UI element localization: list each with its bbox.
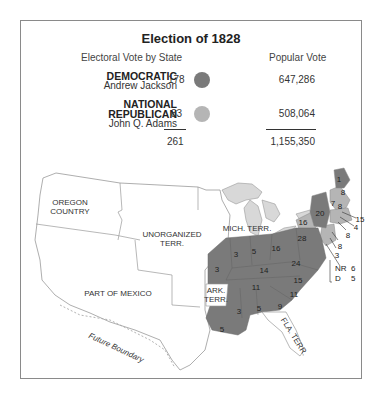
democratic-states	[206, 228, 326, 335]
vote-maine: 1	[337, 175, 342, 184]
vote-miss: 3	[237, 307, 242, 316]
unorganized-label-2: TERR.	[160, 239, 184, 248]
md-d-votes: 5	[351, 274, 356, 283]
ark-terr-label-2: TERR.	[204, 295, 228, 304]
md-nr-votes: 6	[351, 264, 356, 273]
vote-ri: 4	[354, 223, 359, 232]
vote-ill: 3	[234, 250, 239, 259]
vote-del: 3	[335, 251, 340, 260]
vote-ny: 20	[316, 209, 325, 218]
vote-vt: 7	[331, 199, 336, 208]
vote-ala: 5	[257, 304, 262, 313]
ark-terr-label: ARK.	[207, 286, 226, 295]
vote-ind: 5	[252, 247, 257, 256]
vote-mo: 3	[215, 265, 220, 274]
oregon-label-2: COUNTRY	[50, 207, 90, 216]
lake-superior	[222, 183, 262, 204]
vote-ohio: 16	[272, 244, 281, 253]
vote-la: 5	[220, 325, 225, 334]
future-boundary-label: Future Boundary	[87, 331, 146, 365]
vote-va: 24	[292, 259, 301, 268]
vote-pa: 28	[298, 234, 307, 243]
vote-nh: 8	[338, 202, 343, 211]
md-d-label: D	[335, 274, 341, 283]
vote-ct: 8	[346, 231, 351, 240]
vote-nj: 8	[338, 242, 343, 251]
vote-ky: 14	[260, 266, 269, 275]
vote-sc: 11	[290, 290, 299, 299]
oregon-label: OREGON	[52, 198, 88, 207]
vote-maine-2: 8	[341, 188, 346, 197]
vote-tn: 11	[252, 283, 261, 292]
mexico-label: PART OF MEXICO	[84, 289, 152, 298]
md-nr-label: NR	[335, 264, 347, 273]
unorganized-label: UNORGANIZED	[142, 230, 201, 239]
lake-huron	[262, 200, 280, 222]
mich-terr-label: MICH. TERR.	[223, 224, 272, 233]
us-map-1828: OREGON COUNTRY UNORGANIZED TERR. PART OF…	[0, 0, 381, 397]
vote-nc: 15	[294, 276, 303, 285]
vote-ga: 9	[278, 302, 283, 311]
vote-ny-west: 16	[299, 218, 308, 227]
